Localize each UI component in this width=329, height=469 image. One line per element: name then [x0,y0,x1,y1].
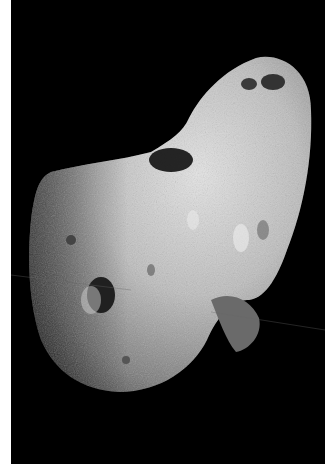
asteroid-photo [11,0,325,464]
photo-frame [11,0,325,464]
